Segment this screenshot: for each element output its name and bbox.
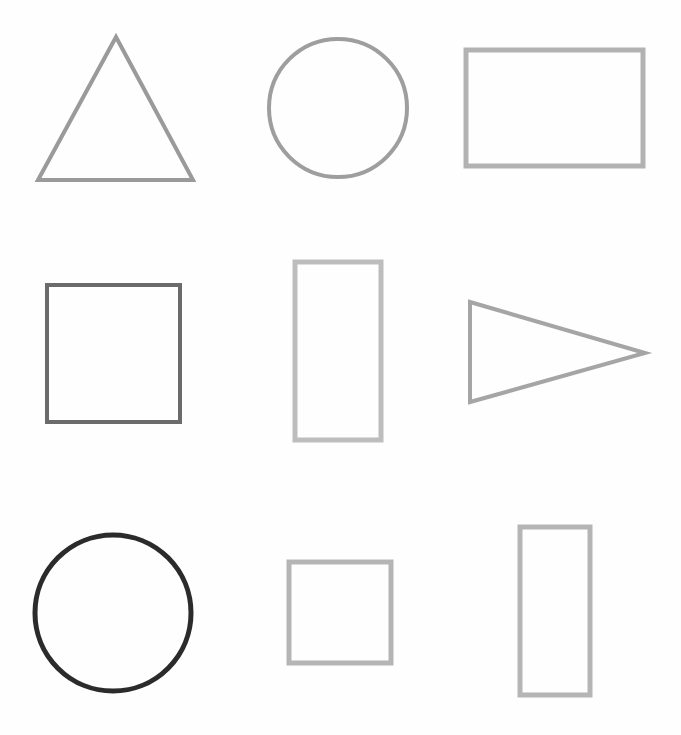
shape-canvas-root	[0, 0, 681, 735]
canvas-background	[0, 0, 681, 735]
shapes-svg-canvas	[0, 0, 681, 735]
